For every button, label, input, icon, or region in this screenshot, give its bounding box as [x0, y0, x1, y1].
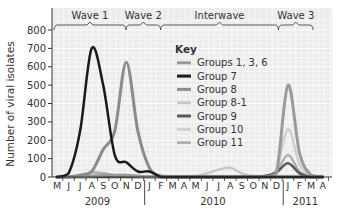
y-tick-label: 200 [27, 135, 46, 146]
x-tick-label: A [181, 180, 188, 191]
x-tick-label: M [168, 180, 176, 191]
period-label: Interwave [195, 10, 245, 21]
x-tick-label: N [261, 180, 268, 191]
x-tick-label: S [100, 180, 106, 191]
y-tick-label: 300 [27, 116, 46, 127]
y-tick-label: 500 [27, 80, 46, 91]
year-label: 2011 [293, 196, 318, 207]
year-label: 2010 [200, 196, 225, 207]
y-tick-label: 400 [27, 98, 46, 109]
y-tick-label: 700 [27, 43, 46, 54]
legend-label: Groups 1, 3, 6 [197, 57, 268, 68]
period-label: Wave 3 [277, 10, 314, 21]
period-label: Wave 1 [71, 10, 108, 21]
x-tick-label: O [250, 180, 257, 191]
x-tick-label: J [147, 180, 151, 191]
x-tick-label: A [88, 180, 95, 191]
y-tick-label: 0 [40, 172, 46, 183]
y-tick-label: 800 [27, 25, 46, 36]
legend-title: Key [175, 43, 197, 55]
x-tick-label: N [123, 180, 130, 191]
x-tick-label: F [158, 180, 163, 191]
legend-label: Group 8 [197, 84, 237, 95]
x-tick-label: J [205, 180, 209, 191]
period-label: Wave 2 [125, 10, 162, 21]
y-tick-label: 600 [27, 61, 46, 72]
legend-label: Group 7 [197, 71, 237, 82]
x-tick-label: D [134, 180, 141, 191]
x-tick-label: J [216, 180, 220, 191]
x-tick-label: O [111, 180, 118, 191]
x-tick-label: M [191, 180, 199, 191]
legend-label: Group 9 [197, 111, 237, 122]
x-tick-label: J [66, 180, 70, 191]
y-tick-label: 100 [27, 153, 46, 164]
year-label: 2009 [85, 196, 110, 207]
x-tick-label: J [286, 180, 290, 191]
legend-label: Group 10 [197, 124, 243, 135]
x-tick-label: J [78, 180, 82, 191]
y-axis-label: Number of viral isolates [4, 41, 16, 166]
x-tick-label: M [53, 180, 61, 191]
x-tick-label: A [319, 180, 326, 191]
x-tick-label: S [239, 180, 245, 191]
viral-isolates-chart: Wave 1Wave 2InterwaveWave 3 010020030040… [0, 0, 348, 218]
x-tick-label: D [273, 180, 280, 191]
legend-label: Group 11 [197, 137, 243, 148]
x-tick-label: F [297, 180, 302, 191]
x-tick-label: M [307, 180, 315, 191]
legend-label: Group 8-1 [197, 97, 247, 108]
x-tick-label: A [227, 180, 234, 191]
